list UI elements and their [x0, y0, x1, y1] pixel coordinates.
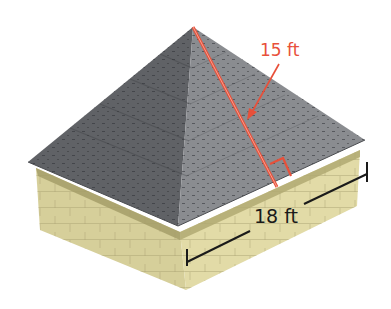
slant-height-label: 15 ft [260, 40, 300, 60]
pyramid-roof-diagram: 15 ft 18 ft [0, 0, 391, 309]
base-side-label: 18 ft [254, 205, 298, 227]
